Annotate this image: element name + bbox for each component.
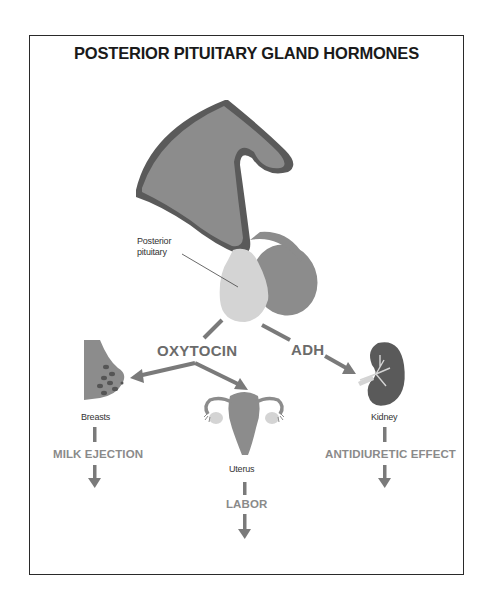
adh-stem-arrow	[262, 325, 290, 340]
antidiuretic-effect: ANTIDIURETIC EFFECT	[325, 448, 456, 460]
oxytocin-to-breasts-arrow	[130, 363, 195, 383]
hypothalamus-shape-icon	[136, 100, 293, 255]
posterior-pituitary-label-line2: pituitary	[137, 247, 171, 258]
kidney-label: Kidney	[371, 412, 397, 422]
diagram-artwork	[0, 0, 486, 606]
oxytocin-to-uterus-arrow	[195, 363, 248, 390]
breasts-label: Breasts	[81, 412, 110, 422]
uterus-icon	[204, 392, 284, 455]
oxytocin-label: OXYTOCIN	[157, 342, 237, 359]
kidney-icon	[358, 342, 405, 405]
breast-icon	[84, 340, 124, 400]
posterior-pituitary-label: Posterior pituitary	[137, 236, 171, 258]
uterus-label: Uterus	[229, 464, 254, 474]
posterior-pituitary-label-line1: Posterior	[137, 236, 171, 247]
adh-label: ADH	[291, 341, 324, 358]
milk-ejection-effect: MILK EJECTION	[53, 448, 143, 460]
uterus-effect-arrows	[238, 482, 251, 539]
adh-to-kidney-arrow	[325, 356, 356, 374]
oxytocin-stem-arrow	[204, 320, 222, 338]
labor-effect: LABOR	[226, 498, 267, 510]
